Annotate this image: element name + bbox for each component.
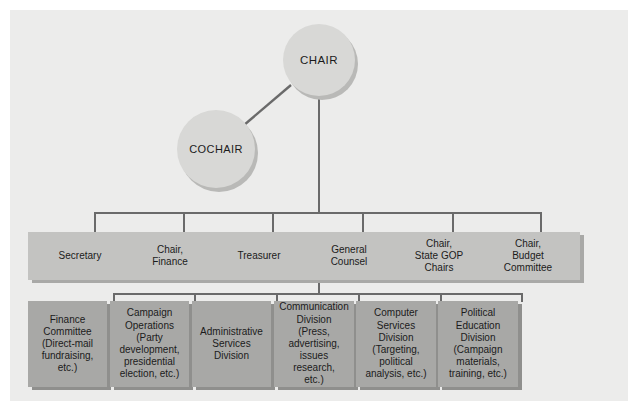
node-computer-services-division-label: Computer Services Division (Targeting, p… — [365, 307, 426, 380]
node-administrative-services-division-label: Administrative Services Division — [200, 326, 263, 363]
officers-drop-line — [94, 212, 96, 233]
node-political-education-division-label: Political Education Division (Campaign m… — [449, 307, 507, 380]
divisions-trunk-line — [318, 280, 320, 294]
node-chair-label: CHAIR — [300, 54, 338, 66]
node-communication-division[interactable]: Communication Division (Press, advertisi… — [274, 301, 354, 387]
node-communication-division-label: Communication Division (Press, advertisi… — [278, 301, 350, 386]
divisions-bus-line — [113, 293, 522, 295]
officers-drop-line — [540, 212, 542, 233]
node-computer-services-division[interactable]: Computer Services Division (Targeting, p… — [356, 301, 436, 387]
node-secretary[interactable]: Secretary — [28, 232, 132, 280]
node-general-counsel-label: General Counsel — [331, 244, 368, 268]
node-treasurer[interactable]: Treasurer — [207, 232, 311, 280]
officers-bus-line — [94, 212, 542, 214]
node-chair-budget-committee[interactable]: Chair, Budget Committee — [476, 232, 580, 280]
officers-drop-line — [362, 212, 364, 233]
node-cochair[interactable]: COCHAIR — [177, 110, 255, 188]
node-chair-budget-committee-label: Chair, Budget Committee — [504, 238, 552, 275]
org-chart-panel: CHAIR COCHAIR Secretary Chair, Finance T… — [10, 10, 628, 401]
node-political-education-division[interactable]: Political Education Division (Campaign m… — [438, 301, 518, 387]
node-administrative-services-division[interactable]: Administrative Services Division — [192, 301, 271, 387]
node-chair[interactable]: CHAIR — [283, 24, 355, 96]
node-finance-committee-label: Finance Committee (Direct-mail fundraisi… — [42, 314, 94, 375]
node-finance-committee[interactable]: Finance Committee (Direct-mail fundraisi… — [28, 301, 107, 387]
node-campaign-operations-label: Campaign Operations (Party development, … — [119, 307, 179, 380]
node-general-counsel[interactable]: General Counsel — [297, 232, 401, 280]
officers-drop-line — [183, 212, 185, 233]
officers-drop-line — [452, 212, 454, 233]
officers-drop-line — [272, 212, 274, 233]
node-chair-finance-label: Chair, Finance — [152, 244, 188, 268]
node-campaign-operations[interactable]: Campaign Operations (Party development, … — [110, 301, 189, 387]
divisions-drop-line — [521, 293, 523, 302]
node-chair-state-gop-chairs-label: Chair, State GOP Chairs — [415, 238, 463, 275]
node-secretary-label: Secretary — [59, 250, 102, 262]
node-treasurer-label: Treasurer — [238, 250, 281, 262]
chair-trunk-line — [318, 86, 320, 213]
node-cochair-label: COCHAIR — [189, 143, 243, 155]
